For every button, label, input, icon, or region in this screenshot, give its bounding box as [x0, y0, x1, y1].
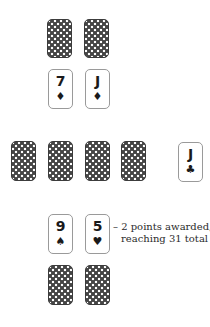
- player-hand-card-2[interactable]: [85, 265, 110, 305]
- card-rank: J: [179, 147, 202, 162]
- score-note-line-2: reaching 31 total: [113, 233, 209, 245]
- player-played-card-1[interactable]: 9 ♠: [48, 214, 73, 254]
- score-note-line-1: – 2 points awarded,: [113, 221, 209, 233]
- card-rank: J: [86, 74, 109, 89]
- crib-card-1[interactable]: [11, 141, 36, 181]
- player-hand-card-1[interactable]: [48, 265, 73, 305]
- diamond-suit-icon: ♦: [86, 91, 109, 103]
- crib-card-2[interactable]: [48, 141, 73, 181]
- opponent-played-card-2[interactable]: J ♦: [85, 69, 110, 109]
- spade-suit-icon: ♠: [49, 236, 72, 248]
- card-rank: 7: [49, 74, 72, 89]
- card-rank: 5: [86, 219, 109, 234]
- opponent-hand-card-1[interactable]: [47, 19, 72, 58]
- crib-card-3[interactable]: [85, 141, 110, 181]
- opponent-played-card-1[interactable]: 7 ♦: [48, 69, 73, 109]
- club-suit-icon: ♣: [179, 164, 202, 176]
- score-note: – 2 points awarded, reaching 31 total: [113, 221, 209, 245]
- diamond-suit-icon: ♦: [49, 91, 72, 103]
- card-rank: 9: [49, 219, 72, 234]
- heart-suit-icon: ♥: [86, 236, 109, 248]
- crib-card-4[interactable]: [121, 141, 146, 181]
- player-played-card-2[interactable]: 5 ♥: [85, 214, 110, 254]
- starter-card[interactable]: J ♣: [178, 142, 203, 182]
- opponent-hand-card-2[interactable]: [84, 19, 109, 58]
